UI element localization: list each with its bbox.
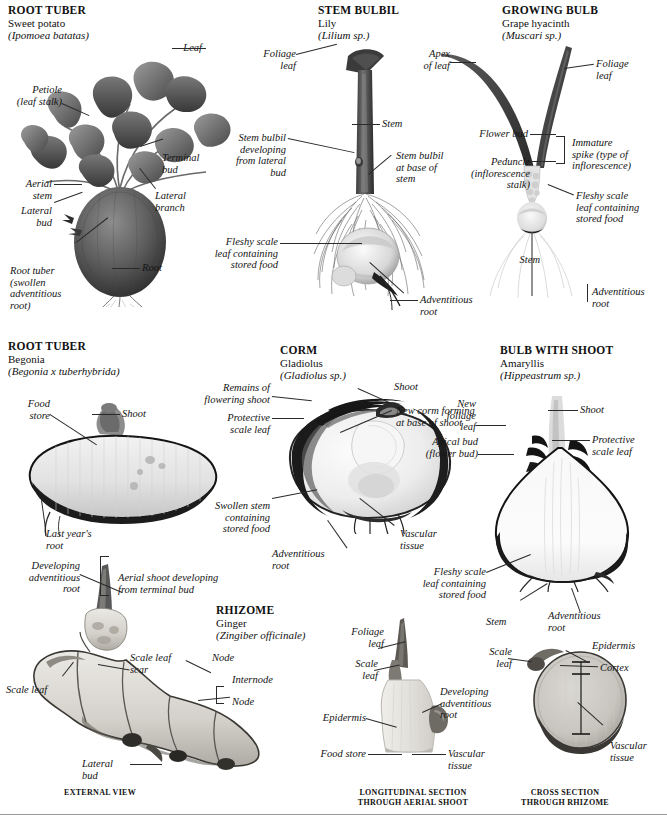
panel-title-root-tuber-begonia: ROOT TUBER Begonia (Begonia x tuberhybri… xyxy=(8,340,120,378)
label-adventitious-root-amaryllis: Adventitious root xyxy=(548,610,601,633)
label-foliage-leaf-ginger: Foliage leaf xyxy=(338,626,384,649)
panel-caption: ROOT TUBER xyxy=(8,340,120,353)
leader-protective-scale-leaf-corm xyxy=(272,418,304,419)
label-lateral-branch: Lateral branch xyxy=(155,190,186,213)
label-swollen-stem: Swollen stem containing stored food xyxy=(190,500,270,535)
label-epidermis-ginger: Epidermis xyxy=(306,712,366,724)
panel-caption: BULB WITH SHOOT xyxy=(500,344,613,357)
label-foliage-leaf-hyacinth: Foliage leaf xyxy=(596,58,629,81)
specimen-amaryllis-bulb xyxy=(470,392,660,592)
label-stem-amaryllis: Stem xyxy=(486,616,506,628)
panel-title-root-tuber-sweet-potato: ROOT TUBER Sweet potato (Ipomoea batatas… xyxy=(8,4,89,42)
leader-protective-scale-leaf-amaryllis xyxy=(552,440,590,441)
label-remains-flowering-shoot: Remains of flowering shoot xyxy=(182,382,270,405)
label-root: Root xyxy=(142,262,162,274)
panel-latin-name: (Gladiolus sp.) xyxy=(280,369,346,382)
label-developing-adventitious-root-long: Developing adventitious root xyxy=(440,686,491,721)
leader-flower-bud xyxy=(530,134,556,135)
label-node-1: Node xyxy=(212,652,234,664)
label-scale-leaf-ginger: Scale leaf xyxy=(6,684,47,696)
panel-caption: ROOT TUBER xyxy=(8,4,89,17)
panel-caption: STEM BULBIL xyxy=(318,4,399,17)
label-fleshy-scale-leaf-amaryllis: Fleshy scale leaf containing stored food xyxy=(398,566,486,601)
label-shoot-corm: Shoot xyxy=(394,381,418,393)
leader-vascular-tissue-ginger xyxy=(412,754,446,755)
panel-common-name: Sweet potato xyxy=(8,17,89,30)
caption-external-view: EXTERNAL VIEW xyxy=(30,788,170,798)
label-protective-scale-leaf-corm: Protective scale leaf xyxy=(190,412,270,435)
label-fleshy-scale-leaf-hyacinth: Fleshy scale leaf containing stored food xyxy=(576,190,639,225)
label-apical-bud: Apical bud (flower bud) xyxy=(414,436,478,459)
label-scale-leaf-ginger-long: Scale leaf xyxy=(338,658,378,681)
panel-title-growing-bulb: GROWING BULB Grape hyacinth (Muscari sp.… xyxy=(502,4,598,42)
leader-peduncle xyxy=(530,161,556,162)
leader-root xyxy=(112,268,140,269)
label-foliage-leaf-lily: Foliage leaf xyxy=(238,48,296,71)
label-stem-hyacinth: Stem xyxy=(500,254,540,266)
label-immature-spike: Immature spike (type of inflorescence) xyxy=(572,137,631,172)
leader-apex-of-leaf xyxy=(450,62,476,63)
leader-adventitious-root-lily-h xyxy=(390,300,418,301)
label-vascular-tissue-corm: Vascular tissue xyxy=(400,528,437,551)
label-food-store-ginger: Food store xyxy=(296,748,366,760)
label-stem-bulbil-base: Stem bulbil at base of stem xyxy=(396,150,444,185)
label-apex-of-leaf: Apex of leaf xyxy=(398,48,450,71)
label-lateral-bud: Lateral bud xyxy=(0,205,52,228)
label-petiole: Petiole (leaf stalk) xyxy=(0,84,62,107)
leader-fleshy-scale-leaf-lily xyxy=(280,243,362,244)
leader-shoot-amaryllis xyxy=(548,410,578,411)
panel-common-name: Amaryllis xyxy=(500,357,613,370)
leader-new-foliage-leaf xyxy=(476,425,506,426)
panel-common-name: Gladiolus xyxy=(280,357,346,370)
label-stem-lily: Stem xyxy=(382,118,402,130)
label-terminal-bud: Terminal bud xyxy=(162,152,200,175)
leader-apical-bud xyxy=(478,454,514,455)
label-aerial-stem: Aerial stem xyxy=(0,178,52,201)
label-node-2: Node xyxy=(232,696,254,708)
panel-caption: GROWING BULB xyxy=(502,4,598,17)
label-new-foliage-leaf: New foliage leaf xyxy=(430,398,476,433)
panel-title-corm-gladiolus: CORM Gladiolus (Gladiolus sp.) xyxy=(280,344,346,382)
panel-common-name: Begonia xyxy=(8,353,120,366)
footer-rule xyxy=(0,814,667,815)
tick-adventitious-root-hyacinth xyxy=(587,284,588,302)
label-scale-leaf-cross: Scale leaf xyxy=(470,646,512,669)
label-protective-scale-leaf-amaryllis: Protective scale leaf xyxy=(592,434,635,457)
label-fleshy-scale-leaf-lily: Fleshy scale leaf containing stored food xyxy=(186,236,278,271)
panel-latin-name: (Begonia x tuberhybrida) xyxy=(8,365,120,378)
leader-aerial-stem xyxy=(54,184,82,185)
label-scale-leaf-scar: Scale leaf scar xyxy=(130,652,171,675)
label-lateral-bud-ginger: Lateral bud xyxy=(82,758,113,781)
label-internode: Internode xyxy=(232,674,273,686)
panel-title-bulb-with-shoot: BULB WITH SHOOT Amaryllis (Hippeastrum s… xyxy=(500,344,613,382)
leader-shoot-begonia xyxy=(92,414,120,415)
panel-common-name: Lily xyxy=(318,17,399,30)
bracket-internode xyxy=(216,686,224,704)
label-shoot-amaryllis: Shoot xyxy=(580,404,604,416)
label-vascular-tissue-cross: Vascular tissue xyxy=(610,740,647,763)
panel-title-stem-bulbil-lily: STEM BULBIL Lily (Lilium sp.) xyxy=(318,4,399,42)
leader-food-store-ginger xyxy=(368,754,402,755)
panel-common-name: Grape hyacinth xyxy=(502,17,598,30)
label-developing-adventitious-root-ginger: Developing adventitious root xyxy=(0,560,80,595)
panel-caption: CORM xyxy=(280,344,346,357)
label-food-store-begonia: Food store xyxy=(4,398,50,421)
caption-cross-section: CROSS SECTION THROUGH RHIZOME xyxy=(500,788,630,808)
label-shoot-begonia: Shoot xyxy=(122,408,146,420)
panel-latin-name: (Ipomoea batatas) xyxy=(8,29,89,42)
label-cortex: Cortex xyxy=(600,662,629,674)
label-last-years-root: Last year's root xyxy=(46,528,92,551)
label-epidermis-cross: Epidermis xyxy=(592,640,635,652)
label-peduncle: Peduncle (inflorescence stalk) xyxy=(458,156,530,191)
leader-leaf xyxy=(172,48,206,49)
caption-longitudinal-section: LONGITUDINAL SECTION THROUGH AERIAL SHOO… xyxy=(348,788,478,808)
bracket-aerial-shoot-developing xyxy=(100,556,109,596)
label-stem-bulbil-developing: Stem bulbil developing from lateral bud xyxy=(200,132,286,178)
label-vascular-tissue-ginger: Vascular tissue xyxy=(448,748,485,771)
panel-latin-name: (Lilium sp.) xyxy=(318,29,399,42)
leader-lateral-bud-ginger xyxy=(130,764,162,765)
label-flower-bud: Flower bud xyxy=(462,128,528,140)
label-root-tuber: Root tuber (swollen adventitious root) xyxy=(10,265,61,311)
panel-latin-name: (Hippeastrum sp.) xyxy=(500,369,613,382)
leader-stem-lily xyxy=(352,124,380,125)
